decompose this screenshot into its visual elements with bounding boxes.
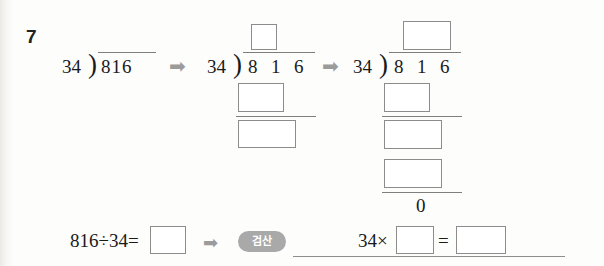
- step3-second-product-box[interactable]: [384, 159, 442, 188]
- step3-second-subtraction-rule: [382, 192, 462, 193]
- step3-divisor: 34: [353, 56, 372, 78]
- arrow-step1-to-step2: ➡: [169, 56, 186, 76]
- step3-first-product-box[interactable]: [384, 83, 430, 112]
- step3-vinculum: [389, 52, 461, 53]
- paper-edge-shading: [0, 0, 14, 266]
- step2-dividend-digit-1: 1: [271, 56, 281, 78]
- step3-dividend-digit-2: 6: [440, 56, 450, 78]
- problem-number: 7: [26, 26, 37, 48]
- step1-division-bracket: ): [88, 51, 97, 78]
- worksheet-page: 7 34 ) 816 ➡ 34 ) 8 1 6 ➡ 34 ) 8 1: [0, 0, 604, 266]
- step2-divisor: 34: [207, 56, 226, 78]
- step2-quotient-box[interactable]: [251, 24, 277, 50]
- arrow-to-verification: ➡: [203, 234, 218, 252]
- step3-quotient-box[interactable]: [403, 21, 451, 50]
- step3-division-bracket: ): [379, 51, 388, 78]
- quotient-answer-box[interactable]: [150, 226, 186, 254]
- step1-vinculum: [98, 52, 156, 53]
- verification-badge[interactable]: 검산: [238, 231, 286, 252]
- verification-result-box[interactable]: [456, 226, 506, 254]
- step2-remainder-box[interactable]: [238, 120, 296, 148]
- step2-subtraction-rule: [236, 116, 316, 117]
- verification-factor-box[interactable]: [396, 226, 434, 254]
- arrow-step2-to-step3: ➡: [322, 56, 339, 76]
- step3-first-subtraction-rule: [382, 116, 462, 117]
- quotient-expression-label: 816÷34=: [70, 230, 139, 252]
- step2-dividend-digit-2: 6: [294, 56, 304, 78]
- verification-equals: =: [438, 230, 449, 252]
- step1-dividend: 816: [101, 56, 133, 78]
- step1-divisor: 34: [62, 56, 81, 78]
- step2-dividend-digit-0: 8: [248, 56, 258, 78]
- step2-product-box[interactable]: [238, 83, 284, 112]
- step3-dividend-digit-0: 8: [394, 56, 404, 78]
- step3-dividend-digit-1: 1: [417, 56, 427, 78]
- step3-remainder-zero: 0: [416, 195, 426, 217]
- answer-underline: [293, 256, 565, 257]
- step2-vinculum: [243, 52, 315, 53]
- step2-division-bracket: ): [233, 51, 242, 78]
- verification-lhs: 34×: [358, 230, 388, 252]
- step3-bring-down-box[interactable]: [384, 120, 442, 149]
